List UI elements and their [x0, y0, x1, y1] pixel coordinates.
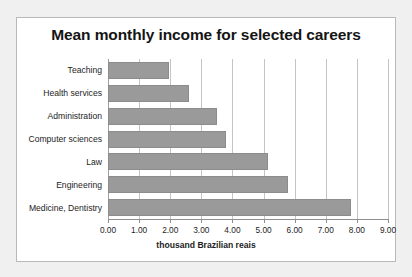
bar: [108, 176, 288, 193]
bar-row: Teaching: [108, 59, 388, 82]
x-tick-mark: [326, 219, 327, 223]
category-label: Administration: [48, 111, 102, 121]
bar-series: TeachingHealth servicesAdministrationCom…: [108, 59, 388, 219]
category-label: Health services: [43, 88, 102, 98]
bar: [108, 199, 351, 216]
x-tick-mark: [139, 219, 140, 223]
bar-row: Law: [108, 150, 388, 173]
category-label: Teaching: [68, 65, 102, 75]
x-tick-label: 9.00: [380, 225, 396, 235]
x-tick-mark: [264, 219, 265, 223]
plot-area: TeachingHealth servicesAdministrationCom…: [108, 59, 388, 219]
bar-row: Health services: [108, 82, 388, 105]
x-tick-mark: [232, 219, 233, 223]
x-tick-label: 1.00: [131, 225, 147, 235]
x-tick-label: 6.00: [287, 225, 303, 235]
bar-row: Medicine, Dentistry: [108, 196, 388, 219]
x-tick-label: 3.00: [193, 225, 209, 235]
x-tick-label: 7.00: [318, 225, 334, 235]
bar: [108, 62, 169, 79]
bar: [108, 131, 226, 148]
bar: [108, 108, 217, 125]
bar: [108, 85, 189, 102]
gridline-9.00: [388, 59, 389, 219]
x-tick-label: 5.00: [255, 225, 271, 235]
x-tick-mark: [388, 219, 389, 223]
x-tick-label: 8.00: [349, 225, 365, 235]
bar-row: Computer sciences: [108, 128, 388, 151]
category-label: Computer sciences: [28, 134, 102, 144]
chart-frame: Mean monthly income for selected careers…: [16, 17, 396, 262]
chart-title: Mean monthly income for selected careers: [17, 26, 395, 44]
bar-row: Administration: [108, 105, 388, 128]
category-label: Engineering: [56, 180, 102, 190]
x-tick-mark: [170, 219, 171, 223]
x-tick-mark: [295, 219, 296, 223]
bar-row: Engineering: [108, 173, 388, 196]
category-label: Law: [86, 157, 102, 167]
x-tick-label: 0.00: [100, 225, 116, 235]
x-tick-mark: [357, 219, 358, 223]
bar: [108, 153, 268, 170]
x-tick-label: 4.00: [224, 225, 240, 235]
x-tick-mark: [108, 219, 109, 223]
x-tick-label: 2.00: [162, 225, 178, 235]
x-axis-title: thousand Brazilian reais: [17, 240, 395, 250]
category-label: Medicine, Dentistry: [29, 203, 102, 213]
x-tick-mark: [201, 219, 202, 223]
x-axis-line: [108, 219, 389, 220]
